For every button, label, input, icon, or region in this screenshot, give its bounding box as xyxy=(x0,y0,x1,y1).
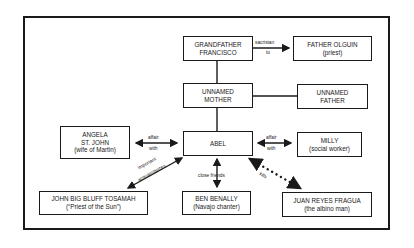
node-juan-reyes-fragua: JUAN REYES FRAGUA (the albino man) xyxy=(282,192,372,217)
edge-label-close-friends: close friends xyxy=(198,173,225,178)
node-name: JUAN REYES FRAGUA xyxy=(293,197,361,205)
node-ben-benally: BEN BENALLY (Navajo chanter) xyxy=(182,191,251,215)
node-angela-st-john: ANGELA ST. JOHN (wife of Martin) xyxy=(60,126,130,159)
edge-label-affair: affair xyxy=(266,135,277,140)
node-name: FRANCISCO xyxy=(199,49,236,57)
node-name: FATHER xyxy=(320,97,344,105)
node-unnamed-father: UNNAMED FATHER xyxy=(297,84,368,109)
edge-label-with: with xyxy=(149,146,158,151)
node-role: (wife of Martin) xyxy=(74,146,116,154)
edge-label-sacristan: sacristan xyxy=(255,40,274,45)
node-abel: ABEL xyxy=(183,131,253,156)
edge-label-to: to xyxy=(266,50,270,55)
node-name: ABEL xyxy=(210,140,226,148)
node-name: MOTHER xyxy=(204,96,231,104)
node-name: MILLY xyxy=(321,137,339,145)
node-role: (Navajo chanter) xyxy=(193,203,240,211)
edge-label-affair: affair xyxy=(148,135,159,140)
node-john-big-bluff-tosamah: JOHN BIG BLUFF TOSAMAH (“Priest of the S… xyxy=(39,191,148,215)
node-name: ANGELA xyxy=(82,131,108,139)
node-name: UNNAMED xyxy=(317,89,349,97)
node-role: (“Priest of the Sun”) xyxy=(66,203,121,211)
node-grandfather-francisco: GRANDFATHER FRANCISCO xyxy=(183,36,253,61)
node-role: (social worker) xyxy=(309,145,350,153)
node-name: JOHN BIG BLUFF TOSAMAH xyxy=(51,195,135,203)
node-name: UNNAMED xyxy=(202,88,234,96)
node-unnamed-mother: UNNAMED MOTHER xyxy=(183,83,253,108)
edge-label-with: with xyxy=(267,146,276,151)
node-name: ST. JOHN xyxy=(81,139,109,147)
node-name: GRANDFATHER xyxy=(194,41,241,49)
node-role: (priest) xyxy=(323,49,343,57)
node-name: BEN BENALLY xyxy=(195,195,238,203)
node-father-olguin: FATHER OLGUIN (priest) xyxy=(293,36,372,61)
node-name: FATHER OLGUIN xyxy=(307,41,357,49)
node-role: (the albino man) xyxy=(304,205,350,213)
node-milly: MILLY (social worker) xyxy=(297,132,362,157)
